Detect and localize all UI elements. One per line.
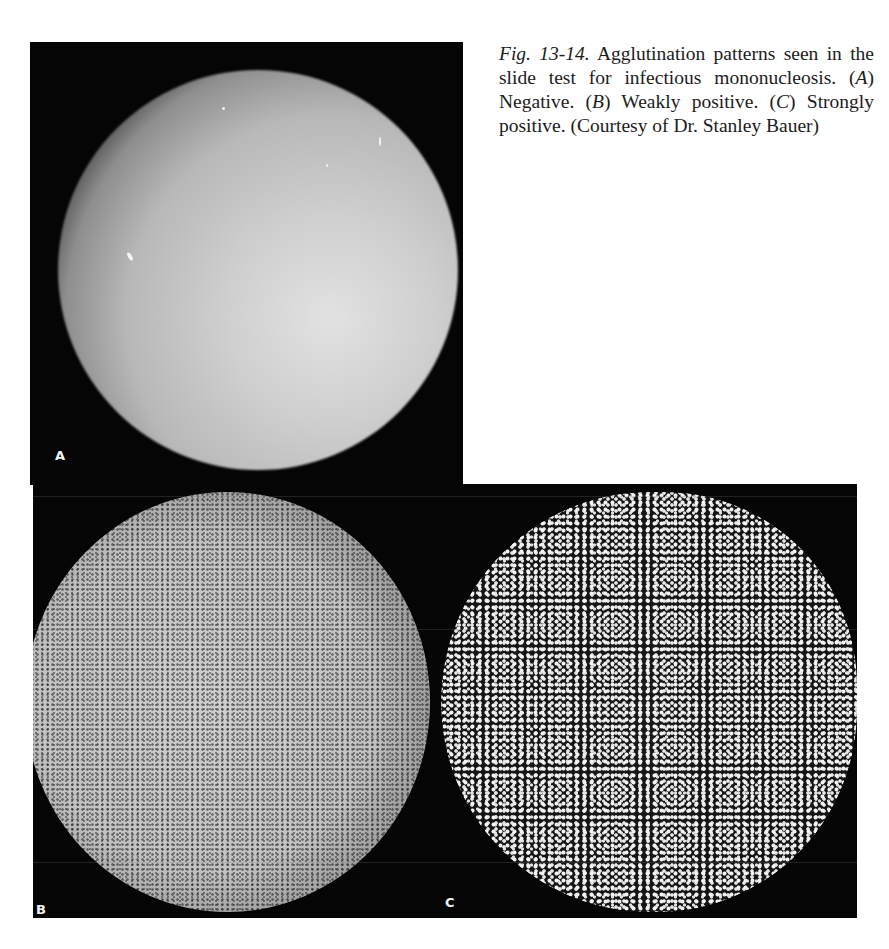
photo-panel-b-c: B C [33, 484, 857, 918]
figure-number: Fig. 13-14. [499, 43, 590, 64]
scan-artifact-line [33, 629, 857, 630]
slide-drop-negative [58, 70, 458, 470]
debris-speck [326, 164, 328, 167]
caption-credit: (Courtesy of Dr. Stanley Bauer) [571, 115, 820, 136]
slide-drop-weakly-positive [33, 492, 430, 912]
panel-label-a: A [55, 449, 65, 462]
caption-letter-b: B [592, 91, 604, 112]
photo-panel-a: A [30, 42, 463, 485]
scan-artifact-line [33, 496, 857, 497]
debris-speck [222, 107, 225, 110]
scan-artifact-line [33, 862, 857, 863]
caption-letter-c: C [776, 91, 789, 112]
caption-letter-a: A [856, 67, 868, 88]
caption-b-text: Weakly positive. [621, 91, 758, 112]
debris-speck [379, 137, 381, 146]
figure-caption: Fig. 13-14. Agglutination patterns seen … [499, 42, 874, 138]
slide-drop-strongly-positive [441, 492, 857, 912]
panel-label-b: B [36, 903, 46, 916]
panel-label-c: C [445, 896, 455, 909]
caption-a-text: Negative. [499, 91, 574, 112]
